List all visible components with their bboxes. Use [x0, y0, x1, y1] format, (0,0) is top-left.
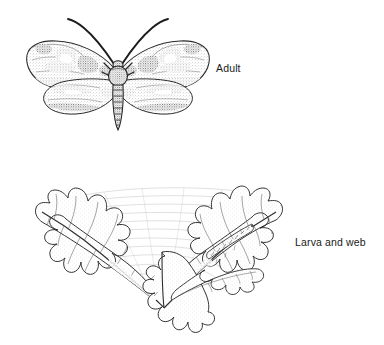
thorax	[109, 66, 128, 86]
illustration-plate: Adult	[0, 0, 384, 345]
larva-and-web-illustration	[12, 140, 312, 335]
larva-label: Larva and web	[295, 237, 366, 248]
adult-moth-illustration	[18, 8, 218, 143]
abdomen	[113, 85, 123, 130]
adult-label: Adult	[216, 63, 241, 74]
